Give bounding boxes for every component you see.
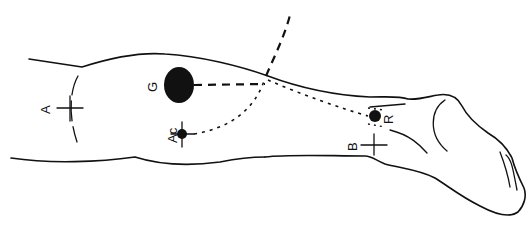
label-r: R [381, 115, 396, 124]
vertical-dashed-line [266, 15, 290, 76]
r-dotted-upper [368, 108, 384, 110]
point-r-marker [369, 110, 381, 122]
ac-connection-curve [194, 78, 265, 134]
label-b: B [345, 142, 360, 151]
leg-diagram: A G Ac R B [0, 0, 530, 231]
label-ac: Ac [165, 127, 180, 143]
tendon-contour [390, 130, 427, 153]
diagram-svg: A G Ac R B [0, 0, 530, 231]
toe-contour-2 [506, 155, 517, 190]
point-g-marker [164, 67, 194, 103]
r-connection-line [268, 80, 368, 116]
ankle-contour [433, 100, 447, 151]
shin-contour [370, 104, 405, 107]
knee-arc [71, 76, 78, 142]
label-g: G [145, 82, 160, 92]
g-connection-line [194, 84, 265, 85]
leg-lower-outline [11, 157, 265, 164]
leg-upper-outline [29, 54, 525, 215]
label-a: A [38, 105, 53, 114]
